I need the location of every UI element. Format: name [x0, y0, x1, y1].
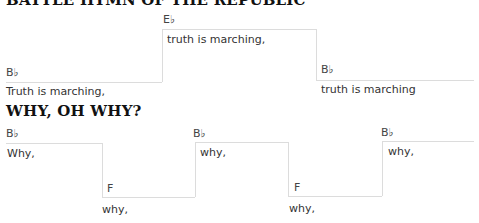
chord-label: F — [107, 182, 113, 195]
lyric-text: why, — [200, 146, 226, 159]
chord-label: B♭ — [6, 127, 19, 140]
step-line — [382, 141, 474, 142]
lyric-text: why, — [388, 145, 414, 158]
step-line — [102, 143, 103, 197]
step-line — [195, 142, 288, 143]
chord-label: B♭ — [321, 63, 334, 76]
step-line — [316, 80, 474, 81]
step-line — [316, 29, 317, 80]
section-title: BATTLE HYMN OF THE REPUBLIC — [6, 0, 306, 9]
step-line — [6, 143, 102, 144]
step-line — [6, 82, 162, 83]
step-line — [162, 29, 316, 30]
step-line — [195, 142, 196, 197]
step-line — [288, 142, 289, 197]
step-line — [102, 197, 195, 198]
chord-label: F — [294, 181, 300, 194]
lyric-text: Why, — [7, 147, 35, 160]
lyric-text: truth is marching — [321, 83, 416, 96]
chord-label: E♭ — [163, 13, 175, 26]
lyric-text: why, — [289, 202, 315, 215]
step-line — [382, 141, 383, 196]
step-line — [162, 29, 163, 82]
lyric-text: why, — [102, 203, 128, 216]
section-title: WHY, OH WHY? — [6, 102, 142, 120]
lyric-text: Truth is marching, — [6, 85, 105, 98]
chord-label: B♭ — [381, 126, 394, 139]
step-line — [288, 196, 382, 197]
chord-label: B♭ — [193, 127, 206, 140]
lyric-text: truth is marching, — [167, 33, 265, 46]
chord-label: B♭ — [6, 66, 19, 79]
